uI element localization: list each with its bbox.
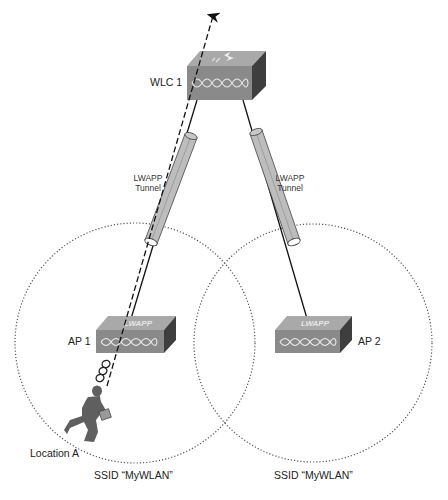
ap1-lwapp-badge: LWAPP xyxy=(124,319,153,328)
tunnel-left-label: LWAPP Tunnel xyxy=(128,173,168,193)
wireless-signal-icon xyxy=(95,359,111,383)
ap1-label: AP 1 xyxy=(68,335,91,347)
wlc-device-icon xyxy=(187,51,266,100)
ap2-device-icon: LWAPP xyxy=(275,316,352,353)
ap2-lwapp-badge: LWAPP xyxy=(301,319,330,328)
location-a-label: Location A xyxy=(30,447,79,459)
wlc-label: WLC 1 xyxy=(150,76,182,88)
mobile-user-icon xyxy=(64,386,111,443)
ap1-device-icon: LWAPP xyxy=(96,316,176,353)
ssid-right-label: SSID “MyWLAN” xyxy=(274,469,353,481)
ssid-left-label: SSID “MyWLAN” xyxy=(94,469,173,481)
tunnel-right-label: LWAPP Tunnel xyxy=(270,173,310,193)
ap2-label: AP 2 xyxy=(358,335,381,347)
network-diagram: LWAPP LWAPP xyxy=(0,0,448,500)
